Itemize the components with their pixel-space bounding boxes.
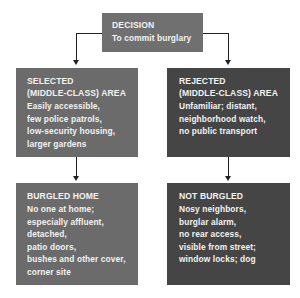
connector-right-vertical [228, 33, 229, 62]
rejected-area-line: Unfamiliar; distant, [179, 100, 290, 113]
not-burgled-box: NOT BURGLED Nosy neighbors, burglar alar… [167, 183, 290, 285]
connector-left-horizontal [76, 33, 102, 34]
rejected-area-line: no public transport [179, 125, 290, 138]
not-burgled-title: NOT BURGLED [179, 190, 290, 202]
selected-area-title-1: SELECTED [27, 75, 138, 87]
burgled-home-line: patio doors, [27, 241, 138, 254]
arrow-down-icon [73, 60, 79, 65]
burgled-home-line: especially affluent, [27, 216, 138, 229]
rejected-area-title-2: (MIDDLE-CLASS) AREA [179, 87, 290, 99]
decision-text: To commit burglary [112, 32, 203, 45]
not-burgled-line: no rear access, [179, 228, 290, 241]
burgled-home-title: BURGLED HOME [27, 190, 138, 202]
burgled-home-line: bushes and other cover, [27, 253, 138, 266]
decision-box: DECISION To commit burglary [102, 13, 203, 52]
selected-area-line: few police patrols, [27, 113, 138, 126]
burgled-home-line: corner site [27, 266, 138, 279]
burgled-home-box: BURGLED HOME No one at home; especially … [16, 183, 138, 285]
selected-area-line: larger gardens [27, 138, 138, 151]
burgled-home-line: No one at home; [27, 203, 138, 216]
selected-area-line: Easily accessible, [27, 100, 138, 113]
selected-area-title-2: (MIDDLE-CLASS) AREA [27, 87, 138, 99]
connector-left-vertical [76, 33, 77, 62]
arrow-down-icon [73, 176, 79, 181]
arrow-down-icon [225, 60, 231, 65]
not-burgled-line: visible from street; [179, 241, 290, 254]
not-burgled-line: Nosy neighbors, [179, 203, 290, 216]
not-burgled-line: burglar alarm, [179, 216, 290, 229]
rejected-area-title-1: REJECTED [179, 75, 290, 87]
selected-area-line: low-security housing, [27, 125, 138, 138]
connector-right-horizontal [203, 33, 229, 34]
connector-selected-to-burgled [76, 157, 77, 178]
not-burgled-line: window locks; dog [179, 253, 290, 266]
connector-rejected-to-not-burgled [228, 157, 229, 178]
decision-title: DECISION [112, 19, 203, 31]
rejected-area-line: neighborhood watch, [179, 113, 290, 126]
arrow-down-icon [225, 176, 231, 181]
selected-area-box: SELECTED (MIDDLE-CLASS) AREA Easily acce… [16, 68, 138, 157]
burgled-home-line: detached, [27, 228, 138, 241]
rejected-area-box: REJECTED (MIDDLE-CLASS) AREA Unfamiliar;… [167, 68, 290, 157]
